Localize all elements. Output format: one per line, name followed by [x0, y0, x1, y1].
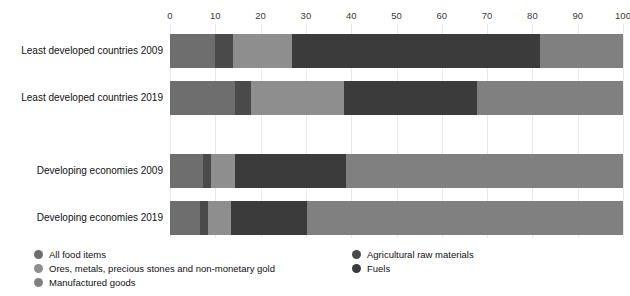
bar-segment[interactable]	[344, 81, 477, 115]
legend-swatch-icon	[34, 250, 43, 259]
stacked-bar[interactable]	[170, 34, 623, 68]
bar-segment[interactable]	[540, 34, 623, 68]
legend-swatch-icon	[352, 250, 361, 259]
bar-segment[interactable]	[203, 154, 211, 188]
bar-segment[interactable]	[235, 81, 251, 115]
legend-label: Ores, metals, precious stones and non-mo…	[49, 262, 275, 275]
legend-item[interactable]: Ores, metals, precious stones and non-mo…	[34, 261, 275, 275]
bar-segment[interactable]	[251, 81, 345, 115]
bar-segment[interactable]	[307, 201, 623, 235]
row-label: Developing economies 2019	[0, 212, 163, 223]
legend-item[interactable]: Agricultural raw materials	[352, 247, 474, 261]
legend-label: Fuels	[367, 262, 390, 275]
legend-item[interactable]: Fuels	[352, 261, 474, 275]
row-label: Developing economies 2009	[0, 165, 163, 176]
legend-item[interactable]: Manufactured goods	[34, 275, 275, 289]
bar-segment[interactable]	[235, 154, 346, 188]
bar-segment[interactable]	[170, 201, 200, 235]
legend-column-left: All food itemsOres, metals, precious sto…	[34, 247, 275, 289]
bar-segment[interactable]	[233, 34, 292, 68]
legend-item[interactable]: All food items	[34, 247, 275, 261]
x-tick-label: 0	[167, 10, 172, 22]
row-label: Least developed countries 2009	[0, 45, 163, 56]
row-label: Least developed countries 2019	[0, 92, 163, 103]
stacked-bar[interactable]	[170, 201, 623, 235]
legend-label: All food items	[49, 248, 106, 261]
x-tick-label: 30	[301, 10, 312, 22]
legend-swatch-icon	[34, 264, 43, 273]
bar-segment[interactable]	[200, 201, 207, 235]
bar-segment[interactable]	[292, 34, 540, 68]
x-tick-label: 90	[572, 10, 583, 22]
chart-row: Least developed countries 2019	[170, 81, 623, 115]
x-tick-label: 100	[615, 10, 630, 22]
chart-row: Developing economies 2019	[170, 201, 623, 235]
stacked-bar[interactable]	[170, 154, 623, 188]
chart-legend: All food itemsOres, metals, precious sto…	[34, 247, 624, 293]
bar-segment[interactable]	[215, 34, 232, 68]
x-tick-label: 20	[255, 10, 266, 22]
x-tick-label: 60	[437, 10, 448, 22]
x-tick-label: 80	[527, 10, 538, 22]
bar-segment[interactable]	[211, 154, 235, 188]
x-tick-label: 50	[391, 10, 402, 22]
gridline	[623, 24, 624, 238]
bar-segment[interactable]	[231, 201, 308, 235]
legend-column-right: Agricultural raw materialsFuels	[352, 247, 474, 275]
chart-row: Least developed countries 2009	[170, 34, 623, 68]
plot-area: Least developed countries 2009Least deve…	[170, 24, 623, 238]
bar-segment[interactable]	[170, 81, 235, 115]
bar-segment[interactable]	[170, 154, 203, 188]
bar-segment[interactable]	[208, 201, 231, 235]
bar-segment[interactable]	[477, 81, 623, 115]
stacked-bar[interactable]	[170, 81, 623, 115]
legend-label: Manufactured goods	[49, 276, 136, 289]
x-tick-label: 40	[346, 10, 357, 22]
bar-segment[interactable]	[170, 34, 215, 68]
x-axis-top: 0102030405060708090100	[170, 10, 623, 24]
bar-segment[interactable]	[346, 154, 623, 188]
x-tick-label: 70	[482, 10, 493, 22]
x-tick-label: 10	[210, 10, 221, 22]
legend-label: Agricultural raw materials	[367, 248, 474, 261]
chart-row: Developing economies 2009	[170, 154, 623, 188]
stacked-bar-chart: 0102030405060708090100 Least developed c…	[0, 0, 630, 296]
legend-swatch-icon	[34, 278, 43, 287]
legend-swatch-icon	[352, 264, 361, 273]
